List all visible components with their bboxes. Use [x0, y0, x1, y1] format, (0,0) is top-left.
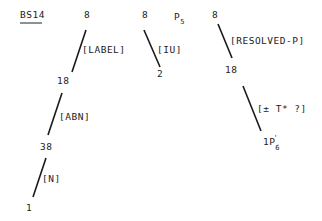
tree2-annotation: P5 — [174, 11, 185, 26]
tree2-node-root: 8 — [142, 9, 148, 20]
diagram-canvas: BS14 8 [LABEL] 18 [ABN] 38 [N] 1 8 P5 [I… — [0, 0, 322, 221]
annotation-sub: 5 — [180, 18, 185, 26]
diagram-title: BS14 — [20, 9, 45, 20]
tree2-leaf: 2 — [157, 68, 163, 79]
tree3-node-2: 18 — [225, 64, 237, 75]
tree1-node-2: 18 — [57, 75, 69, 86]
leaf-sub: 6 — [275, 144, 280, 152]
tree-3: 8 [RESOLVED-P] 18 [± T* ?] 1P'6 — [212, 9, 307, 152]
tree-2: 8 P5 [IU] 2 — [142, 9, 185, 79]
leaf-prime: ' — [273, 134, 278, 142]
tree2-edge-label-1: [IU] — [157, 44, 182, 55]
tree3-edge-label-1: [RESOLVED-P] — [230, 35, 305, 46]
tree3-edge-label-2: [± T* ?] — [257, 103, 307, 114]
tree1-node-root: 8 — [84, 9, 90, 20]
tree-1: 8 [LABEL] 18 [ABN] 38 [N] 1 — [26, 9, 126, 213]
tree1-edge-label-3: [N] — [42, 173, 61, 184]
tree1-edge-label-1: [LABEL] — [82, 44, 126, 55]
tree1-edge-label-2: [ABN] — [59, 111, 90, 122]
tree3-leaf: 1P'6 — [263, 134, 280, 152]
tree3-node-root: 8 — [212, 9, 218, 20]
tree1-leaf: 1 — [26, 202, 32, 213]
tree1-node-3: 38 — [40, 141, 52, 152]
